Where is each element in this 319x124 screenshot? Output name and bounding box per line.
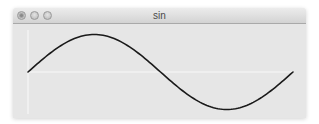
plot-canvas	[13, 24, 306, 118]
window-title: sin	[13, 9, 306, 22]
title-bar[interactable]: sin	[13, 8, 306, 24]
sin-window: sin	[13, 8, 306, 118]
